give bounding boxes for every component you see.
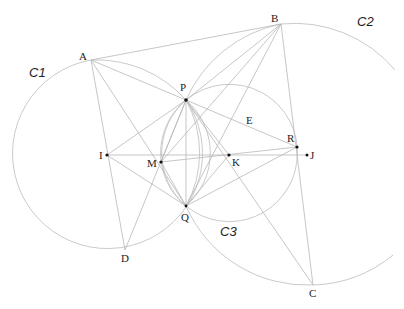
label-c: C	[309, 287, 316, 299]
line-mq	[161, 162, 186, 206]
label-c2: C2	[357, 14, 374, 29]
line-bq	[186, 24, 281, 206]
label-q: Q	[181, 211, 189, 223]
point-r	[295, 145, 298, 148]
label-p: P	[180, 81, 186, 93]
circle-c2-lower	[186, 206, 393, 285]
label-c1: C1	[29, 65, 46, 80]
label-m: M	[147, 157, 157, 169]
label-b: B	[271, 12, 278, 24]
geometry-diagram: A B P Q I M K E R J D C C1 C2 C3	[0, 0, 404, 309]
points	[105, 98, 308, 207]
point-j	[306, 154, 309, 157]
circle-c2	[281, 23, 395, 70]
label-c3: C3	[220, 224, 237, 239]
arc-pq-3	[186, 100, 200, 206]
point-i	[105, 153, 108, 156]
line-qk	[186, 155, 229, 206]
line-ap	[91, 60, 186, 100]
line-pm	[161, 100, 186, 162]
point-q	[185, 205, 188, 208]
label-a: A	[79, 50, 87, 62]
point-p	[184, 98, 188, 102]
point-k	[227, 153, 230, 156]
label-e: E	[246, 114, 253, 126]
label-j: J	[310, 149, 315, 161]
point-m	[159, 160, 162, 163]
circles	[13, 23, 395, 285]
arc-pq-1	[162, 100, 186, 206]
circle-labels: C1 C2 C3	[29, 14, 374, 239]
label-k: K	[232, 156, 240, 168]
line-bp	[186, 24, 281, 100]
label-r: R	[287, 132, 295, 144]
line-ab	[91, 24, 281, 60]
label-i: I	[99, 149, 103, 161]
label-d: D	[121, 252, 129, 264]
